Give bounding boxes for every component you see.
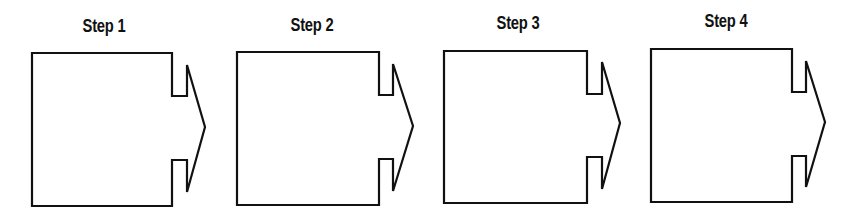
step-4-label: Step 4 [705, 11, 748, 32]
process-flow-diagram: Step 1 Step 2 Step 3 Step 4 [0, 0, 843, 212]
step-2-label: Step 2 [291, 15, 334, 36]
step-4-arrow-box [651, 49, 825, 202]
step-1-label: Step 1 [83, 16, 126, 37]
step-2-arrow-box [237, 52, 413, 205]
step-1-arrow-box [32, 53, 205, 206]
step-3-arrow-box [444, 51, 620, 203]
step-3-label: Step 3 [497, 13, 540, 34]
